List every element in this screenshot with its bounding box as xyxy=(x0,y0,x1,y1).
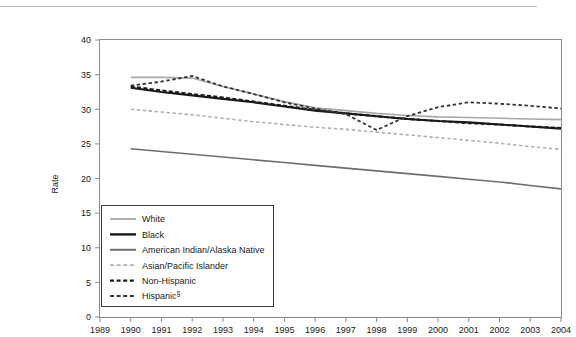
y-axis-tick-labels: 0510152025303540 xyxy=(81,35,91,322)
y-tick-label: 40 xyxy=(81,35,91,45)
legend-border xyxy=(102,206,274,307)
x-tick-label: 1991 xyxy=(151,325,171,335)
top-divider-rule xyxy=(0,6,537,7)
x-tick-label: 1997 xyxy=(336,325,356,335)
chart-legend: WhiteBlackAmerican Indian/Alaska NativeA… xyxy=(102,206,274,307)
x-tick-label: 1989 xyxy=(90,325,110,335)
x-tick-label: 1999 xyxy=(397,325,417,335)
legend-label: Black xyxy=(142,230,165,240)
legend-label: Hispanic§ xyxy=(142,290,181,301)
y-tick-label: 25 xyxy=(81,139,91,149)
x-tick-label: 1994 xyxy=(244,325,264,335)
y-axis-title: Rate xyxy=(50,174,60,193)
x-tick-label: 2001 xyxy=(459,325,479,335)
y-tick-label: 30 xyxy=(81,105,91,115)
x-tick-label: 2000 xyxy=(428,325,448,335)
legend-label: Asian/Pacific Islander xyxy=(142,261,228,271)
y-tick-label: 5 xyxy=(86,278,91,288)
y-tick-label: 15 xyxy=(81,208,91,218)
line-chart-figure: 0510152025303540 19891990199119921993199… xyxy=(40,16,576,337)
x-tick-label: 2002 xyxy=(490,325,510,335)
x-tick-label: 2004 xyxy=(551,325,571,335)
x-tick-label: 1990 xyxy=(121,325,141,335)
x-axis-tick-labels: 1989199019911992199319941995199619971998… xyxy=(90,325,571,335)
x-tick-label: 1996 xyxy=(305,325,325,335)
x-tick-label: 1998 xyxy=(367,325,387,335)
y-tick-label: 20 xyxy=(81,174,91,184)
x-tick-label: 2003 xyxy=(520,325,540,335)
x-tick-label: 1995 xyxy=(274,325,294,335)
legend-label: Non-Hispanic xyxy=(142,276,197,286)
x-tick-label: 1993 xyxy=(213,325,233,335)
x-tick-label: 1992 xyxy=(182,325,202,335)
legend-label: American Indian/Alaska Native xyxy=(142,245,265,255)
y-tick-label: 10 xyxy=(81,243,91,253)
chart-canvas: 0510152025303540 19891990199119921993199… xyxy=(40,16,576,337)
y-tick-label: 35 xyxy=(81,70,91,80)
legend-label: White xyxy=(142,214,165,224)
y-tick-label: 0 xyxy=(86,312,91,322)
